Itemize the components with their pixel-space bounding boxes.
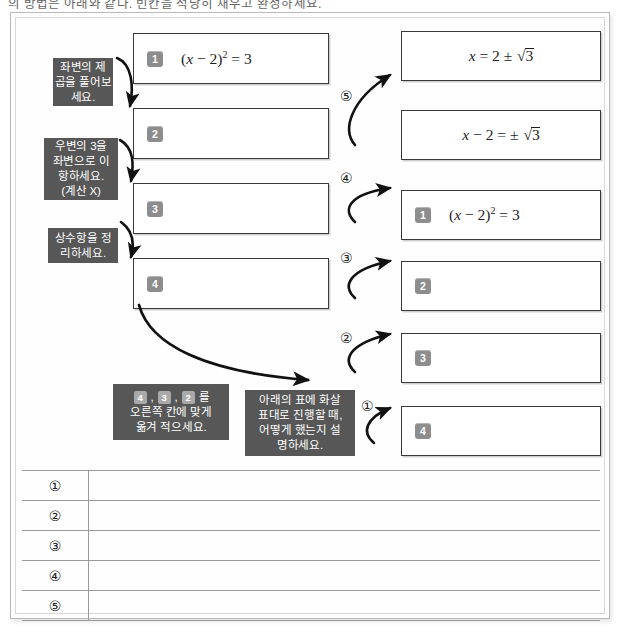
right-box-3[interactable]: 1 (x − 2)2 = 3 bbox=[401, 190, 601, 240]
left-box-1-equation: (x − 2)2 = 3 bbox=[181, 49, 252, 68]
table-answer-cell[interactable] bbox=[89, 501, 600, 530]
step-number-4: ④ bbox=[340, 170, 353, 186]
note4-badge-3: 3 bbox=[158, 391, 171, 404]
right-box-4[interactable]: 2 bbox=[401, 261, 601, 311]
note5-line-2: 표대로 진행할 때, bbox=[258, 408, 343, 423]
right-box-4-badge: 2 bbox=[415, 278, 431, 294]
left-box-4[interactable]: 4 bbox=[133, 258, 329, 309]
right-box-5-badge: 3 bbox=[415, 350, 431, 366]
table-answer-cell[interactable] bbox=[89, 471, 600, 500]
note4-badge-2: 2 bbox=[182, 391, 195, 404]
left-box-4-badge: 4 bbox=[147, 276, 163, 292]
note-constant-term: 상수항을 정 리하세요. bbox=[48, 228, 118, 263]
step-number-1: ① bbox=[361, 398, 374, 414]
note1-line-3: 세요. bbox=[71, 90, 96, 105]
note2-line-2: 좌변으로 이 bbox=[53, 154, 110, 169]
note3-line-2: 리하세요. bbox=[60, 246, 106, 261]
step-number-3: ③ bbox=[340, 250, 353, 266]
note-expand-square: 좌변의 제 곱을 풀어보 세요. bbox=[53, 58, 113, 106]
note1-line-2: 곱을 풀어보 bbox=[55, 75, 112, 90]
right-box-6[interactable]: 4 bbox=[401, 406, 601, 456]
left-box-2-badge: 2 bbox=[147, 126, 163, 142]
right-box-2[interactable]: x − 2 = ± √3 bbox=[401, 110, 601, 160]
step-number-5: ⑤ bbox=[340, 88, 353, 104]
left-box-1[interactable]: 1 (x − 2)2 = 3 bbox=[133, 33, 329, 84]
note4-badge-suffix: 를 bbox=[199, 391, 210, 403]
note2-line-3: 항하세요. bbox=[58, 169, 104, 184]
note4-line-1: 오른쪽 칸에 맞게 bbox=[130, 405, 212, 420]
table-answer-cell[interactable] bbox=[89, 591, 600, 620]
table-answer-cell[interactable] bbox=[89, 531, 600, 560]
table-row[interactable]: ② bbox=[22, 501, 600, 531]
note5-line-3: 어떻게 했는지 설 bbox=[259, 423, 341, 438]
left-box-3-badge: 3 bbox=[147, 201, 163, 217]
note2-line-4: (계산 X) bbox=[61, 184, 100, 199]
worksheet-page: 의 방법은 아래와 같다. 빈칸을 적당히 채우고 완성하세요. 1 (x − … bbox=[0, 0, 622, 632]
table-row[interactable]: ④ bbox=[22, 561, 600, 591]
left-box-3[interactable]: 3 bbox=[133, 183, 329, 234]
note-explain-arrows: 아래의 표에 화살 표대로 진행할 때, 어떻게 했는지 설 명하세요. bbox=[245, 390, 355, 456]
right-box-1-equation: x = 2 ± √3 bbox=[469, 47, 534, 65]
right-box-2-equation: x − 2 = ± √3 bbox=[462, 126, 539, 144]
note4-badge-4: 4 bbox=[134, 391, 147, 404]
top-instruction-text: 의 방법은 아래와 같다. 빈칸을 적당히 채우고 완성하세요. bbox=[8, 0, 322, 12]
note4-line-2: 옮겨 적으세요. bbox=[136, 420, 207, 435]
table-row-number: ⑤ bbox=[22, 591, 88, 620]
table-row[interactable]: ③ bbox=[22, 531, 600, 561]
note2-line-1: 우변의 3을 bbox=[55, 139, 107, 154]
right-box-3-equation: (x − 2)2 = 3 bbox=[449, 205, 520, 224]
note5-line-1: 아래의 표에 화살 bbox=[259, 393, 341, 408]
right-box-1[interactable]: x = 2 ± √3 bbox=[401, 31, 601, 81]
right-box-6-badge: 4 bbox=[415, 423, 431, 439]
table-answer-cell[interactable] bbox=[89, 561, 600, 590]
step-number-2: ② bbox=[340, 330, 353, 346]
right-box-5[interactable]: 3 bbox=[401, 333, 601, 383]
note4-badges-line: 4 , 3 , 2 를 bbox=[133, 390, 210, 405]
note-copy-to-right: 4 , 3 , 2 를 오른쪽 칸에 맞게 옮겨 적으세요. bbox=[113, 384, 229, 440]
table-row-number: ① bbox=[22, 471, 88, 500]
table-row[interactable]: ① bbox=[22, 470, 600, 501]
note1-line-1: 좌변의 제 bbox=[60, 60, 106, 75]
table-row-number: ④ bbox=[22, 561, 88, 590]
note3-line-1: 상수항을 정 bbox=[55, 231, 112, 246]
table-row-number: ② bbox=[22, 501, 88, 530]
answer-table: ① ② ③ ④ ⑤ bbox=[22, 470, 600, 621]
table-row-number: ③ bbox=[22, 531, 88, 560]
left-box-2[interactable]: 2 bbox=[133, 108, 329, 159]
note5-line-4: 명하세요. bbox=[277, 438, 323, 453]
note-move-term: 우변의 3을 좌변으로 이 항하세요. (계산 X) bbox=[44, 138, 118, 200]
left-box-1-badge: 1 bbox=[147, 51, 163, 67]
table-row[interactable]: ⑤ bbox=[22, 591, 600, 621]
right-box-3-badge: 1 bbox=[415, 207, 431, 223]
